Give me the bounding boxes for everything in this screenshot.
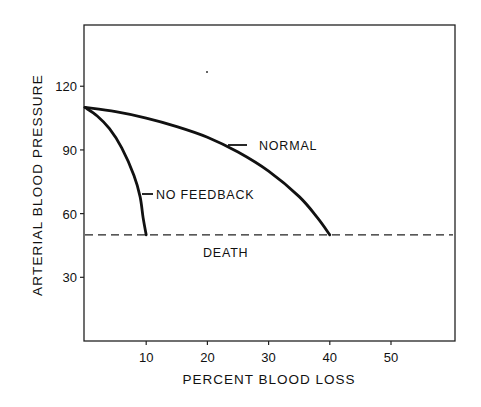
x-tick-label: 40 (323, 350, 337, 365)
chart: 306090120 1020304050 NORMALNO FEEDBACKDE… (0, 0, 481, 407)
x-axis-label: PERCENT BLOOD LOSS (182, 372, 355, 387)
x-tick-label: 10 (139, 350, 153, 365)
stray-dot (206, 71, 208, 73)
y-axis-ticks: 306090120 (55, 79, 84, 285)
y-tick-label: 30 (63, 270, 77, 285)
annotation-normal: NORMAL (259, 139, 317, 153)
y-tick-label: 90 (63, 143, 77, 158)
annotations: NORMALNO FEEDBACKDEATH (142, 139, 317, 260)
x-tick-label: 30 (261, 350, 275, 365)
annotation-no-feedback: NO FEEDBACK (156, 188, 254, 202)
x-tick-label: 50 (384, 350, 398, 365)
annotation-death: DEATH (203, 246, 248, 260)
series-no-feedback (85, 107, 146, 234)
x-axis-ticks: 1020304050 (139, 341, 398, 365)
y-tick-label: 60 (63, 207, 77, 222)
x-tick-label: 20 (200, 350, 214, 365)
y-tick-label: 120 (55, 79, 77, 94)
plot-frame (84, 25, 455, 341)
y-axis-label: ARTERIAL BLOOD PRESSURE (30, 74, 45, 296)
series-normal (85, 107, 330, 234)
series-lines (85, 107, 330, 234)
